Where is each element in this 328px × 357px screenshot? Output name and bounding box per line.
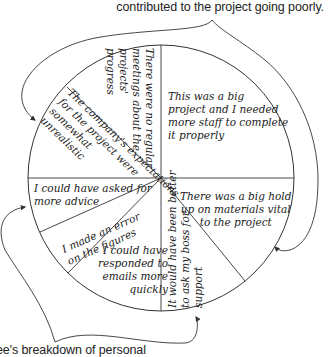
segment-emails: I could have responded to emails more qu… — [98, 244, 168, 296]
segment-big-project: This was a big project and I needed more… — [168, 90, 288, 142]
bottom-bracket-arrow-right — [55, 317, 197, 343]
bottom-bracket-arrow-left — [1, 207, 55, 342]
